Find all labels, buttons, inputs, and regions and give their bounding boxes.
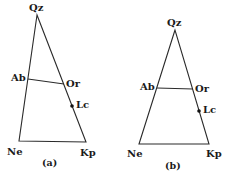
label-ab-b: Ab <box>139 81 155 92</box>
label-qz-a: Qz <box>29 2 44 13</box>
diagram-canvas: Qz Ab Or Lc Ne Kp (a) Qz Ab Or Lc Ne Kp … <box>0 0 232 176</box>
label-kp-b: Kp <box>206 148 222 159</box>
figure-b: Qz Ab Or Lc Ne Kp (b) <box>127 17 222 171</box>
label-qz-b: Qz <box>167 17 182 28</box>
label-kp-a: Kp <box>80 147 96 158</box>
label-lc-a: Lc <box>76 99 89 110</box>
label-ab-a: Ab <box>10 72 26 83</box>
segment-ab-or-a <box>28 79 64 84</box>
label-ne-b: Ne <box>127 148 143 159</box>
point-lc-a <box>70 104 74 108</box>
label-ne-a: Ne <box>7 146 23 157</box>
label-or-b: Or <box>195 83 210 94</box>
caption-a: (a) <box>42 157 57 168</box>
label-or-a: Or <box>66 78 81 89</box>
caption-b: (b) <box>165 160 181 171</box>
figure-a: Qz Ab Or Lc Ne Kp (a) <box>7 2 96 168</box>
segment-ab-or-b <box>157 88 193 89</box>
point-lc-b <box>197 109 201 113</box>
label-lc-b: Lc <box>203 104 216 115</box>
